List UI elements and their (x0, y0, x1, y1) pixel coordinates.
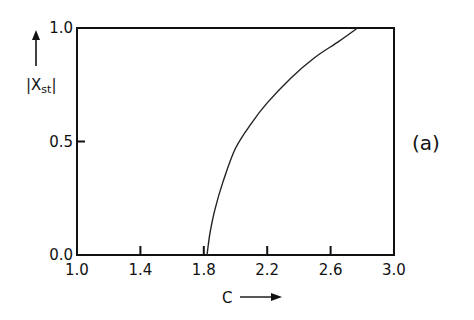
x-label-text: C (222, 289, 232, 307)
y-axis-ticks: 0.00.51.0 (49, 19, 85, 264)
chart-figure: 1.01.41.82.22.63.0 0.00.51.0 |Xst| C (a) (0, 0, 474, 320)
y-label-end: | (51, 76, 56, 94)
x-axis-arrowhead-icon (271, 293, 282, 301)
x-tick-label: 2.6 (319, 261, 343, 279)
y-axis-arrowhead-icon (32, 30, 40, 40)
svg-text:|Xst|: |Xst| (26, 76, 56, 96)
x-tick-label: 3.0 (382, 261, 406, 279)
x-tick-label: 1.4 (128, 261, 152, 279)
x-axis-label: C (222, 289, 282, 307)
panel-label: (a) (412, 131, 440, 155)
y-tick-label: 0.0 (49, 246, 73, 264)
data-curve (207, 28, 358, 255)
y-tick-label: 1.0 (49, 19, 73, 37)
x-tick-label: 2.2 (255, 261, 279, 279)
y-axis-label: |Xst| (26, 30, 56, 96)
x-axis-ticks: 1.01.41.82.22.63.0 (65, 246, 406, 279)
y-tick-label: 0.5 (49, 133, 73, 151)
y-label-main: |X (26, 76, 41, 94)
x-tick-label: 1.8 (192, 261, 216, 279)
plot-frame (77, 28, 394, 255)
